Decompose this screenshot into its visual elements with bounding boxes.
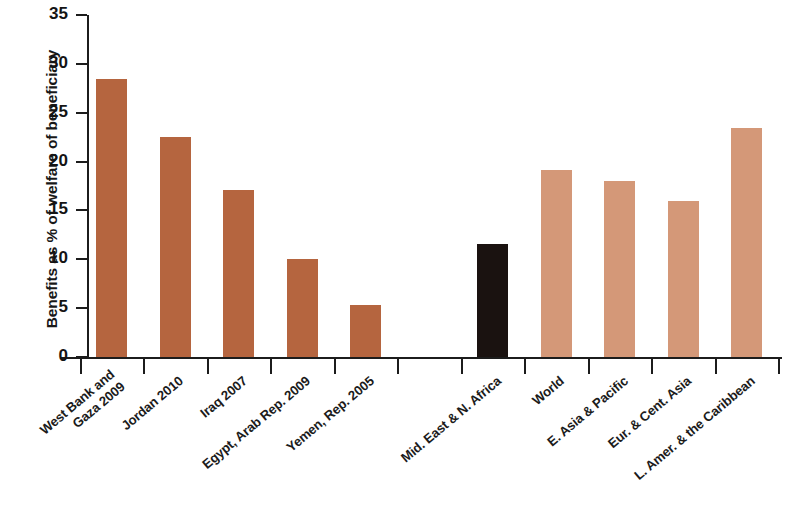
x-axis-label-line: L. Amer. & the Caribbean [631, 373, 758, 483]
x-axis-tick [588, 359, 590, 374]
x-axis-label: World [529, 373, 567, 408]
x-axis-label: L. Amer. & the Caribbean [631, 373, 758, 483]
y-axis-tick-label: 15 [24, 199, 68, 219]
y-axis-tick-label: 35 [24, 4, 68, 24]
bar-country [287, 259, 318, 357]
bar-country [96, 79, 127, 357]
bar-comparator [731, 128, 762, 357]
y-axis-tick [76, 307, 87, 309]
x-axis-label: Iraq 2007 [197, 373, 249, 420]
y-axis-tick-label: 30 [24, 53, 68, 73]
y-axis-line [87, 15, 89, 359]
y-axis-tick-label: 0 [24, 346, 68, 366]
y-axis-tick [76, 63, 87, 65]
x-axis-tick [715, 359, 717, 374]
y-axis-tick-label: 10 [24, 248, 68, 268]
y-axis-tick [76, 209, 87, 211]
x-axis-tick [651, 359, 653, 374]
x-axis-label: West Bank andGaza 2009 [36, 367, 127, 451]
y-axis-tick-label: 20 [24, 151, 68, 171]
x-axis-label-line: Egypt, Arab Rep. 2009 [199, 373, 313, 472]
bar-comparator [668, 201, 699, 357]
y-axis-tick [76, 112, 87, 114]
y-axis-tick-label: 5 [24, 297, 68, 317]
bar-comparator [604, 181, 635, 357]
y-axis-tick [76, 258, 87, 260]
bar-region-highlight [477, 244, 508, 357]
bar-country [223, 190, 254, 357]
x-axis-tick [143, 359, 145, 374]
x-axis-label-line: Jordan 2010 [118, 373, 185, 433]
x-axis-label-line: World [529, 373, 567, 408]
x-axis-label: Mid. East & N. Africa [398, 373, 504, 465]
x-axis-tick [207, 359, 209, 374]
x-axis-label-line: Mid. East & N. Africa [398, 373, 504, 465]
y-axis-tick [76, 356, 87, 358]
x-axis-label-line: Iraq 2007 [197, 373, 249, 420]
x-axis-tick [80, 359, 82, 374]
bar-chart: Benefits as % of welfare of beneficiary … [0, 0, 786, 522]
x-axis-line [60, 357, 782, 359]
y-axis-tick-label: 25 [24, 102, 68, 122]
bar-country [350, 305, 381, 357]
x-axis-label: Egypt, Arab Rep. 2009 [199, 373, 313, 472]
x-axis-tick [270, 359, 272, 374]
y-axis-tick [76, 14, 87, 16]
bar-country [160, 137, 191, 357]
x-axis-label: Jordan 2010 [118, 373, 185, 433]
bar-comparator [541, 170, 572, 357]
x-axis-tick [461, 359, 463, 374]
x-axis-tick [397, 359, 399, 374]
x-axis-tick [778, 359, 780, 374]
x-axis-tick [334, 359, 336, 374]
y-axis-tick [76, 161, 87, 163]
x-axis-tick [524, 359, 526, 374]
